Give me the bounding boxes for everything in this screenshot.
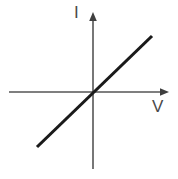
voltage-axis-label: V (152, 98, 163, 115)
arrow-up-icon (89, 12, 97, 21)
graph-canvas (0, 0, 178, 179)
iv-characteristic-figure: I V (0, 0, 178, 179)
current-axis-label: I (74, 4, 79, 21)
arrow-right-icon (160, 88, 169, 96)
